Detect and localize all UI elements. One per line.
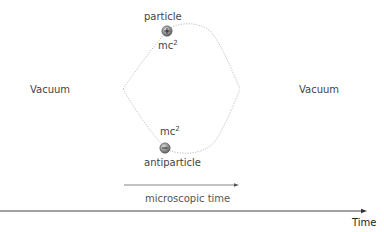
antiparticle-energy-base: mc xyxy=(160,126,175,137)
vacuum-right-label: Vacuum xyxy=(299,84,339,96)
particle-icon xyxy=(162,26,172,36)
time-axis-arrow xyxy=(0,209,367,213)
vacuum-left-label: Vacuum xyxy=(30,84,70,96)
particle-label: particle xyxy=(144,11,182,23)
antiparticle-icon xyxy=(160,143,170,153)
particle-energy-base: mc xyxy=(158,40,173,51)
particle-energy-exponent: 2 xyxy=(173,39,177,47)
antiparticle-energy-exponent: 2 xyxy=(175,125,179,133)
antiparticle-energy: mc2 xyxy=(160,126,180,138)
microscopic-time-arrow xyxy=(124,183,239,186)
microscopic-time-label: microscopic time xyxy=(145,193,230,205)
fluctuation-loop xyxy=(123,24,240,154)
particle-energy: mc2 xyxy=(158,40,178,52)
time-axis-label: Time xyxy=(352,217,376,229)
antiparticle-path-arc xyxy=(165,89,240,153)
antiparticle-path-left xyxy=(123,89,165,148)
antiparticle-label: antiparticle xyxy=(144,157,201,169)
particle-path-arc xyxy=(167,24,240,89)
